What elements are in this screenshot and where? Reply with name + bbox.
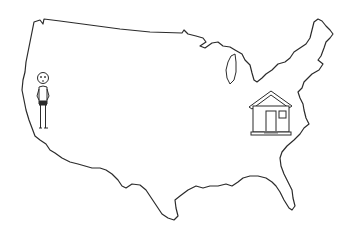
us-map-svg: [0, 0, 353, 237]
person-head: [38, 73, 49, 84]
house-door: [266, 111, 276, 132]
house-step: [264, 131, 278, 134]
house-window: [279, 111, 286, 118]
map-illustration: person-west-coast house-east-coast: [0, 0, 353, 237]
